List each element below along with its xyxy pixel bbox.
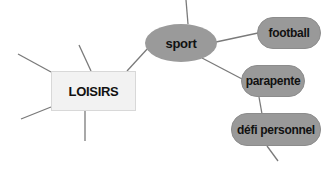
node-sport-label: sport (165, 36, 196, 51)
node-parapente-label: parapente (246, 74, 301, 88)
line-sport-top (186, 0, 188, 24)
line-sport-football (216, 33, 258, 42)
node-defi-personnel[interactable]: défi personnel (231, 113, 321, 146)
center-node-label: LOISIRS (69, 84, 119, 99)
line-center-top-left (18, 54, 51, 72)
line-defi-bottom (267, 146, 278, 161)
line-center-bottom-left (21, 107, 51, 119)
line-parapente-defi (259, 97, 262, 114)
line-sport-parapente (202, 58, 244, 80)
node-parapente[interactable]: parapente (241, 65, 305, 97)
node-football-label: football (269, 26, 310, 40)
node-football[interactable]: football (257, 17, 321, 49)
node-sport[interactable]: sport (145, 24, 217, 62)
line-center-sport (127, 47, 149, 71)
center-node-loisirs[interactable]: LOISIRS (51, 71, 136, 111)
line-center-top (79, 45, 91, 71)
node-defi-label: défi personnel (237, 123, 315, 137)
